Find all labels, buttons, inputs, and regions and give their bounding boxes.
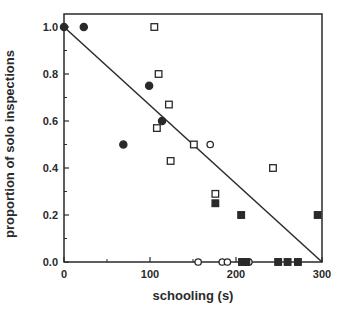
filled-circle-point — [158, 117, 165, 124]
filled-square-point — [212, 200, 219, 207]
filled-square-point — [284, 259, 291, 266]
filled-circle-point — [120, 141, 127, 148]
x-axis-title: schooling (s) — [153, 288, 234, 303]
plot-frame — [64, 14, 322, 262]
tick-labels: 01002003000.00.20.40.60.81.0 — [43, 21, 331, 280]
open-square-point — [154, 125, 161, 132]
y-tick-label: 0.4 — [43, 162, 59, 174]
y-tick-label: 1.0 — [43, 21, 58, 33]
y-tick-label: 0.8 — [43, 68, 58, 80]
filled-circle-point — [80, 23, 87, 30]
x-tick-label: 100 — [141, 268, 159, 280]
filled-square-point — [243, 259, 250, 266]
y-tick-label: 0.2 — [43, 209, 58, 221]
filled-square-point — [238, 212, 245, 219]
open-circle-point — [195, 259, 201, 265]
x-tick-label: 0 — [61, 268, 67, 280]
filled-circle-point — [60, 23, 67, 30]
open-square-point — [167, 158, 174, 165]
y-tick-label: 0.6 — [43, 115, 58, 127]
y-axis-title: proportion of solo inspections — [2, 50, 17, 238]
filled-square-point — [275, 259, 282, 266]
open-square-point — [270, 165, 277, 172]
open-circle-point — [207, 141, 213, 147]
open-square-point — [155, 71, 162, 78]
filled-circle-point — [146, 82, 153, 89]
open-square-point — [212, 191, 219, 198]
filled-square-point — [314, 212, 321, 219]
scatter-chart: 01002003000.00.20.40.60.81.0 schooling (… — [0, 0, 344, 318]
open-square-point — [166, 101, 173, 108]
axes — [64, 14, 322, 262]
open-square-point — [151, 24, 158, 31]
open-square-point — [191, 141, 198, 148]
x-tick-label: 300 — [313, 268, 331, 280]
x-tick-label: 200 — [227, 268, 245, 280]
filled-square-point — [295, 259, 302, 266]
y-tick-label: 0.0 — [43, 256, 58, 268]
open-circle-point — [224, 259, 230, 265]
